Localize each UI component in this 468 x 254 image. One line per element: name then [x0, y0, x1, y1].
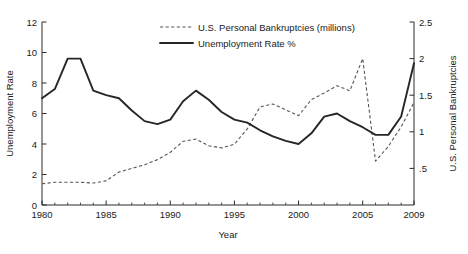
- x-tick-label-1980: 1980: [31, 209, 52, 220]
- x-tick-label-1990: 1990: [160, 209, 181, 220]
- y-right-tick-label-2: 2: [419, 53, 424, 64]
- y-left-tick-label-12: 12: [26, 17, 37, 28]
- y-right-tick-label-1.5: 1.5: [419, 90, 432, 101]
- y-left-tick-label-2: 2: [32, 169, 37, 180]
- y-left-tick-label-0: 0: [32, 200, 37, 211]
- series-line-bankruptcies: [42, 59, 414, 184]
- series-line-unemployment: [42, 59, 414, 144]
- y-axis-right-title: U.S. Personal Bankruptcies: [447, 55, 458, 171]
- y-left-tick-label-4: 4: [32, 139, 37, 150]
- y-left-tick-label-8: 8: [32, 78, 37, 89]
- y-right-tick-label-0.5: .5: [419, 163, 427, 174]
- x-tick-label-1985: 1985: [96, 209, 117, 220]
- y-left-tick-label-6: 6: [32, 108, 37, 119]
- x-tick-label-2005: 2005: [352, 209, 373, 220]
- chart-container: 1980198519901995200020052009024681012.51…: [0, 0, 468, 254]
- line-chart: 1980198519901995200020052009024681012.51…: [0, 0, 468, 254]
- y-right-tick-label-2.5: 2.5: [419, 17, 432, 28]
- y-right-tick-label-1: 1: [419, 126, 424, 137]
- legend-label-1: Unemployment Rate %: [198, 38, 296, 49]
- x-axis-title: Year: [218, 229, 237, 240]
- x-tick-label-1995: 1995: [224, 209, 245, 220]
- legend-label-0: U.S. Personal Bankruptcies (millions): [198, 22, 355, 33]
- y-left-tick-label-10: 10: [26, 47, 37, 58]
- y-axis-left-title: Unemployment Rate: [4, 70, 15, 157]
- x-tick-label-2009: 2009: [403, 209, 424, 220]
- x-tick-label-2000: 2000: [288, 209, 309, 220]
